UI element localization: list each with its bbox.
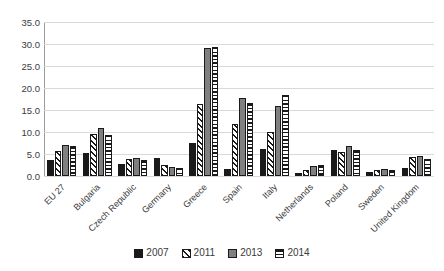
gridline — [44, 176, 434, 177]
y-tick-label: 20.0 — [6, 84, 40, 94]
legend-label: 2014 — [287, 248, 309, 258]
bar-2007-italy — [260, 149, 267, 176]
bar-group — [44, 22, 79, 176]
bar-2011-germany — [161, 165, 168, 176]
bar-2007-sweden — [366, 172, 373, 176]
x-tick-label: Spain — [221, 182, 244, 205]
bar-2007-bulgaria — [83, 153, 90, 176]
y-tick-label: 25.0 — [6, 62, 40, 72]
bar-2011-italy — [267, 132, 274, 176]
bar-group — [115, 22, 150, 176]
bar-2014-netherlands — [318, 165, 325, 176]
bar-2007-spain — [224, 169, 231, 176]
x-category-slot: Poland — [328, 178, 363, 242]
x-tick-label: EU 27 — [42, 182, 67, 207]
bar-2014-bulgaria — [105, 135, 112, 176]
bar-2007-poland — [331, 150, 338, 176]
bar-2013-spain — [239, 98, 246, 176]
bar-group — [221, 22, 256, 176]
bar-2014-eu-27 — [70, 146, 77, 176]
x-category-slot: Germany — [150, 178, 185, 242]
y-tick-label: 30.0 — [6, 40, 40, 50]
bar-2007-germany — [154, 158, 161, 176]
y-tick-label: 10.0 — [6, 128, 40, 138]
bar-2013-sweden — [381, 169, 388, 176]
bar-2013-eu-27 — [62, 145, 69, 176]
plot-area — [44, 22, 434, 176]
bar-2011-sweden — [374, 170, 381, 176]
bar-group — [79, 22, 114, 176]
legend-swatch-icon — [228, 249, 237, 258]
bar-2013-bulgaria — [98, 128, 105, 176]
legend-label: 2011 — [194, 248, 216, 258]
legend-swatch-icon — [182, 249, 191, 258]
bar-2013-united-kingdom — [417, 156, 424, 176]
bar-2014-poland — [353, 150, 360, 176]
chart-legend: 2007201120132014 — [0, 248, 444, 258]
x-tick-label: Italy — [261, 182, 280, 201]
bar-group — [363, 22, 398, 176]
bar-2011-netherlands — [303, 170, 310, 176]
x-category-slot: Greece — [186, 178, 221, 242]
legend-swatch-icon — [134, 249, 143, 258]
bar-2014-germany — [176, 168, 183, 176]
legend-item-2011[interactable]: 2011 — [182, 248, 216, 258]
bar-2013-germany — [169, 167, 176, 176]
x-axis-category-labels: EU 27BulgariaCzech RepublicGermanyGreece… — [44, 178, 434, 242]
bar-chart: 0.05.010.015.020.025.030.035.0 EU 27Bulg… — [0, 0, 444, 271]
bar-2011-greece — [197, 104, 204, 176]
bar-2007-greece — [189, 143, 196, 176]
bar-2007-netherlands — [295, 173, 302, 176]
bar-2007-czech-republic — [118, 164, 125, 176]
bar-2007-united-kingdom — [402, 168, 409, 176]
x-tick-label: Poland — [324, 182, 351, 209]
legend-label: 2013 — [240, 248, 262, 258]
bar-2014-united-kingdom — [424, 159, 431, 176]
bar-2011-czech-republic — [126, 159, 133, 176]
bar-groups — [44, 22, 434, 176]
bar-2013-czech-republic — [133, 158, 140, 176]
bar-2013-netherlands — [310, 166, 317, 176]
bar-2014-spain — [247, 103, 254, 176]
legend-swatch-icon — [275, 249, 284, 258]
bar-2011-bulgaria — [90, 134, 97, 176]
bar-2011-eu-27 — [55, 151, 62, 176]
x-category-slot: Netherlands — [292, 178, 327, 242]
bar-group — [186, 22, 221, 176]
y-tick-label: 35.0 — [6, 18, 40, 28]
bars-layer — [44, 22, 434, 176]
legend-label: 2007 — [146, 248, 168, 258]
bar-2011-spain — [232, 124, 239, 176]
bar-2013-poland — [346, 146, 353, 176]
y-tick-label: 15.0 — [6, 106, 40, 116]
x-category-slot: Spain — [221, 178, 256, 242]
bar-2013-italy — [275, 106, 282, 176]
bar-group — [257, 22, 292, 176]
bar-group — [399, 22, 434, 176]
bar-group — [292, 22, 327, 176]
x-tick-label: Greece — [181, 182, 209, 210]
bar-2014-czech-republic — [141, 160, 148, 176]
legend-item-2007[interactable]: 2007 — [134, 248, 168, 258]
bar-2014-greece — [212, 47, 219, 176]
bar-2011-poland — [338, 152, 345, 176]
bar-2014-italy — [282, 95, 289, 176]
bar-2007-eu-27 — [47, 160, 54, 176]
legend-item-2013[interactable]: 2013 — [228, 248, 262, 258]
y-tick-label: 5.0 — [6, 150, 40, 160]
x-category-slot: EU 27 — [44, 178, 79, 242]
legend-item-2014[interactable]: 2014 — [275, 248, 309, 258]
y-tick-label: 0.0 — [6, 172, 40, 182]
bar-group — [328, 22, 363, 176]
bar-2013-greece — [204, 48, 211, 176]
bar-2014-sweden — [389, 170, 396, 176]
bar-2011-united-kingdom — [409, 157, 416, 176]
bar-group — [150, 22, 185, 176]
x-category-slot: United Kingdom — [399, 178, 434, 242]
